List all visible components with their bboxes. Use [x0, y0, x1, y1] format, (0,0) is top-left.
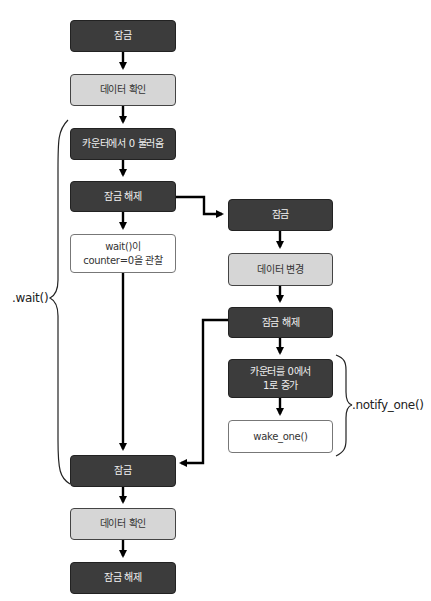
- box-label: wake_one(): [253, 430, 307, 444]
- box-label: 잠금: [114, 464, 131, 478]
- increment-counter-box: 카운터를 0에서 1로 증가: [228, 359, 333, 398]
- wait-label: .wait(): [12, 291, 48, 305]
- lock-box-right: 잠금: [228, 199, 333, 231]
- box-label: 데이터 확인: [100, 517, 146, 531]
- unlock-box-2: 잠금 해제: [70, 562, 176, 594]
- lock-box-2: 잠금: [70, 455, 176, 487]
- box-label: 데이터 확인: [100, 83, 146, 97]
- lock-box-1: 잠금: [70, 20, 176, 52]
- check-data-box-2: 데이터 확인: [70, 508, 176, 540]
- box-label: 잠금 해제: [104, 190, 142, 204]
- wait-brace: [50, 120, 70, 484]
- box-label-line1: wait()이: [105, 240, 141, 254]
- unlock-box-1: 잠금 해제: [70, 181, 176, 212]
- box-label-line1: 카운터를 0에서: [250, 365, 311, 379]
- modify-data-box: 데이터 변경: [228, 253, 333, 286]
- box-label: 잠금: [272, 208, 289, 222]
- box-label-line2: 1로 증가: [263, 379, 298, 393]
- box-label: 잠금 해제: [104, 571, 142, 585]
- box-label: 잠금: [114, 29, 131, 43]
- unlock-box-right: 잠금 해제: [228, 307, 333, 338]
- notify-one-label: .notify_one(): [352, 398, 424, 412]
- box-label: 카운터에서 0 불러옴: [82, 137, 163, 151]
- box-label: 잠금 해제: [262, 316, 300, 330]
- wait-observe-box: wait()이 counter=0을 관찰: [70, 234, 176, 273]
- box-label: 데이터 변경: [257, 263, 303, 277]
- connector-arrows: [0, 0, 431, 601]
- load-counter-box: 카운터에서 0 불러옴: [70, 128, 176, 160]
- wake-one-box: wake_one(): [228, 420, 333, 453]
- notify-brace: [336, 355, 352, 456]
- check-data-box-1: 데이터 확인: [70, 74, 176, 106]
- box-label-line2: counter=0을 관찰: [83, 254, 163, 268]
